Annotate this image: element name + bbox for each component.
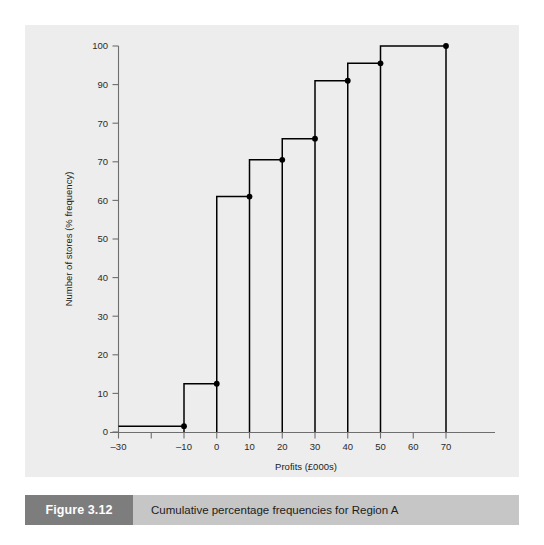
x-tick-label: 30 [310,441,321,452]
data-point-marker [312,136,318,142]
data-point-marker [279,157,285,163]
x-tick-label: 50 [375,441,386,452]
y-tick-label: 90 [97,79,108,90]
chart-plot: 0102030405060707090100 –30–1001020304050… [0,0,544,480]
y-tick-label: 0 [103,426,108,437]
data-point-marker [181,423,187,429]
y-tick-label: 100 [92,40,108,51]
y-tick-label: 50 [97,233,108,244]
data-point-marker [345,78,351,84]
figure-caption-text: Cumulative percentage frequencies for Re… [133,495,519,525]
data-point-marker [443,43,449,49]
y-tick-label: 40 [97,272,108,283]
y-axis-ticks: 0102030405060707090100 [92,40,118,437]
x-tick-label: 20 [277,441,288,452]
x-tick-label: –10 [176,441,192,452]
x-tick-label: 10 [244,441,255,452]
x-tick-label: 0 [214,441,219,452]
x-tick-label: –30 [111,441,127,452]
cumulative-step-line [119,46,447,432]
data-point-marker [214,381,220,387]
data-point-marker [378,60,384,66]
figure-root: 0102030405060707090100 –30–1001020304050… [0,0,544,545]
data-point-marker [247,194,253,200]
x-axis-ticks: –30–10010203040506070 [111,433,452,453]
x-tick-label: 60 [408,441,419,452]
y-tick-label: 70 [97,156,108,167]
x-tick-label: 70 [441,441,452,452]
x-tick-label: 40 [342,441,353,452]
y-tick-label: 60 [97,195,108,206]
figure-caption-bar: Figure 3.12 Cumulative percentage freque… [25,495,519,525]
y-tick-label: 30 [97,311,108,322]
y-tick-label: 70 [97,118,108,129]
figure-number-box: Figure 3.12 [25,495,133,525]
x-axis-title: Profits (£000s) [275,461,337,472]
figure-number-label: Figure 3.12 [45,503,112,517]
y-tick-label: 20 [97,349,108,360]
y-axis-title: Number of stores (% frequency) [63,172,74,307]
y-tick-label: 10 [97,388,108,399]
